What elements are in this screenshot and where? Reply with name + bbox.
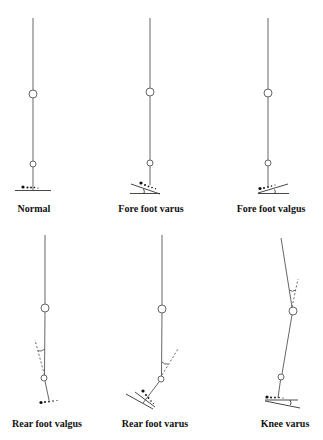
ankle-joint-icon	[265, 160, 271, 166]
label-normal: Normal	[18, 203, 51, 214]
reference-dashed-line	[35, 340, 45, 375]
label-knee-varus: Knee varus	[261, 418, 310, 429]
angle-arc-icon	[290, 400, 291, 405]
panel-fore-foot-varus	[130, 18, 160, 194]
ankle-joint-icon	[278, 374, 284, 380]
ankle-joint-icon	[41, 375, 47, 381]
hip-joint-icon	[146, 88, 154, 96]
reference-dashed-line	[292, 279, 298, 307]
label-rear-foot-valgus: Rear foot valgus	[12, 418, 82, 429]
panel-knee-varus	[265, 238, 300, 408]
tilted-forefoot-line	[258, 184, 288, 193]
hip-joint-icon	[289, 307, 297, 315]
ground-line	[126, 394, 153, 409]
panel-fore-foot-valgus	[258, 18, 289, 194]
angle-arc-icon	[38, 349, 45, 351]
shank-line	[282, 315, 292, 374]
thigh-line	[281, 238, 292, 307]
reference-dashed-line	[162, 349, 178, 375]
ground-line	[265, 401, 300, 408]
ankle-joint-icon	[158, 376, 164, 382]
angle-arc-icon	[162, 362, 168, 364]
foot-dots-icon	[39, 400, 57, 404]
label-fore-foot-valgus: Fore foot valgus	[237, 203, 306, 214]
label-rear-foot-varus: Rear foot varus	[122, 418, 188, 429]
foot-dots-icon	[265, 395, 283, 398]
ankle-joint-icon	[147, 160, 153, 166]
angle-arc-icon	[289, 290, 296, 291]
foot-dots-icon	[258, 184, 275, 190]
label-fore-foot-varus: Fore foot varus	[118, 203, 183, 214]
angle-arc-icon	[144, 189, 145, 194]
shank-line	[45, 312, 46, 375]
foot-line	[278, 380, 281, 398]
foot-dots-icon	[21, 185, 38, 188]
ankle-joint-icon	[30, 161, 36, 167]
foot-line	[45, 381, 49, 400]
hip-joint-icon	[41, 304, 49, 312]
hip-joint-icon	[29, 90, 37, 98]
panel-rear-foot-valgus	[35, 235, 58, 404]
angle-arc-icon	[275, 190, 276, 194]
panel-normal	[15, 18, 51, 191]
shank-line	[162, 313, 163, 376]
leg-alignment-diagram	[0, 0, 323, 440]
hip-joint-icon	[264, 89, 272, 97]
panel-rear-foot-varus	[126, 235, 178, 409]
hip-joint-icon	[158, 305, 166, 313]
